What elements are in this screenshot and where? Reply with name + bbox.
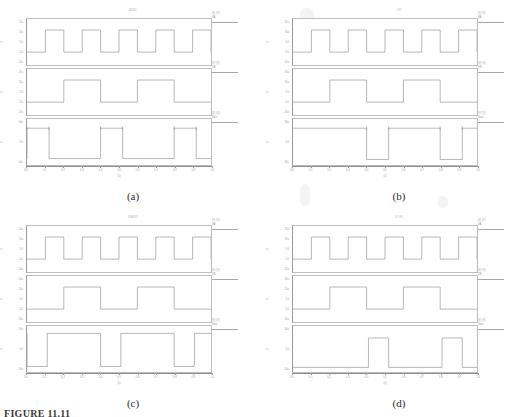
y-tick-label: -5.0 xyxy=(285,258,289,261)
x-tick-label: 0.1 xyxy=(43,169,47,172)
legend-signal: VB xyxy=(212,66,264,70)
x-tick-mark xyxy=(100,166,101,168)
legend-line-swatch xyxy=(212,72,238,73)
x-tick-label: 0.1 xyxy=(43,376,47,379)
x-tick-label: 0.3 xyxy=(80,376,84,379)
legend-signal: VA xyxy=(212,16,264,20)
x-axis-name: (s) xyxy=(117,382,120,385)
waveform-trace xyxy=(27,326,211,372)
panel-b-caption: (b) xyxy=(266,190,532,202)
legend: (V) (V) VA xyxy=(212,12,264,23)
legend-signal: VB xyxy=(478,273,530,277)
panel-a-caption: (a) xyxy=(0,190,266,202)
y-tick-labels: 25u15u5.0-5.0-15u xyxy=(270,18,290,66)
x-tick-label: 1.0 xyxy=(476,169,480,172)
x-tick-label: 0.4 xyxy=(99,376,103,379)
x-tick-label: 0.7 xyxy=(420,376,424,379)
panel-b: OR V 25u15u5.0-5.0-15u (V) (V) VA V 25u1… xyxy=(266,2,532,202)
x-tick-mark xyxy=(348,166,349,168)
legend: (V) (V) VA xyxy=(478,219,530,230)
x-tick-mark xyxy=(156,166,157,168)
panel-b-subplot-1: V 25u15u5.0-5.0-15u (V) (V) VA xyxy=(292,18,478,66)
waveform-trace xyxy=(27,19,211,65)
legend-line-swatch xyxy=(212,122,238,123)
x-tick-label: 0.6 xyxy=(402,169,406,172)
x-axis-name: (s) xyxy=(383,382,386,385)
y-tick-label: 5.0 xyxy=(19,248,23,251)
legend-signal: VA xyxy=(212,223,264,227)
x-tick-label: 1.0 xyxy=(476,376,480,379)
legend-line-swatch xyxy=(478,122,504,123)
panel-a-subplot-1: V 25u15u5.0-5.0-15u (V) (V) VA xyxy=(26,18,212,66)
waveform-trace xyxy=(27,226,211,272)
x-tick-mark xyxy=(45,373,46,375)
y-tick-labels: 25u15u5.0-5.0-15u xyxy=(4,225,24,273)
plot-area xyxy=(292,325,478,373)
y-tick-label: -5.0 xyxy=(285,51,289,54)
x-tick-mark xyxy=(175,166,176,168)
x-axis-name: (s) xyxy=(383,175,386,178)
x-tick-label: 0.7 xyxy=(154,376,158,379)
x-tick-label: 0.7 xyxy=(154,169,158,172)
legend: (V) (V) Vout xyxy=(478,319,530,330)
y-tick-label: 50u xyxy=(19,120,23,123)
x-tick-mark xyxy=(138,166,139,168)
x-tick-label: 0.0 xyxy=(290,169,294,172)
x-tick-mark xyxy=(459,166,460,168)
legend-signal: VB xyxy=(478,66,530,70)
x-tick-mark xyxy=(311,166,312,168)
y-tick-label: 15u xyxy=(19,287,23,290)
y-tick-labels: 25u15u5.0-5.0-15u xyxy=(4,18,24,66)
y-tick-label: 25u xyxy=(285,70,289,73)
y-tick-label: 5.0 xyxy=(19,91,23,94)
x-tick-mark xyxy=(404,373,405,375)
y-tick-label: -15u xyxy=(18,111,23,114)
x-tick-mark xyxy=(119,166,120,168)
x-tick-mark xyxy=(82,166,83,168)
x-tick-label: 0.8 xyxy=(439,169,443,172)
legend: (V) (V) VB xyxy=(478,62,530,73)
x-tick-label: 0.3 xyxy=(346,169,350,172)
panel-a-subplot-3: V 50u0.0-50u (V) (V) Vout xyxy=(26,118,212,166)
legend-signal: Vout xyxy=(478,116,530,120)
x-tick-label: 0.2 xyxy=(327,169,331,172)
x-tick-mark xyxy=(26,166,27,168)
panel-a-subplot-2: V 25u15u5.0-5.0-15u (V) (V) VB xyxy=(26,68,212,116)
y-tick-label: 0.0 xyxy=(285,141,289,144)
y-tick-labels: 50u0.0-50u xyxy=(4,325,24,373)
waveform-trace xyxy=(293,276,477,322)
plot-area xyxy=(26,225,212,273)
y-tick-label: 5.0 xyxy=(285,248,289,251)
legend: (V) (V) Vout xyxy=(212,112,264,123)
y-tick-label: 5.0 xyxy=(19,41,23,44)
panel-d-subplot-3: V 50u0.0-50u (V) (V) Vout xyxy=(292,325,478,373)
y-tick-label: 25u xyxy=(19,70,23,73)
plot-area xyxy=(292,118,478,166)
legend-signal: VA xyxy=(478,223,530,227)
waveform-trace xyxy=(293,119,477,165)
x-tick-mark xyxy=(459,373,460,375)
x-tick-mark xyxy=(385,166,386,168)
y-tick-label: 25u xyxy=(19,227,23,230)
panel-d-subplot-2: V 25u15u5.0-5.0-15u (V) (V) VB xyxy=(292,275,478,323)
y-tick-label: -5.0 xyxy=(19,51,23,54)
panel-a: AND V 25u15u5.0-5.0-15u (V) (V) VA V 25u… xyxy=(0,2,266,202)
x-tick-mark xyxy=(212,373,213,375)
legend: (V) (V) VB xyxy=(478,269,530,280)
panel-d-subplot-1: V 25u15u5.0-5.0-15u (V) (V) VA xyxy=(292,225,478,273)
y-tick-label: 25u xyxy=(19,20,23,23)
legend: (V) (V) Vout xyxy=(212,319,264,330)
y-tick-label: -15u xyxy=(284,111,289,114)
x-tick-mark xyxy=(292,166,293,168)
x-tick-label: 0.9 xyxy=(192,169,196,172)
y-tick-label: -50u xyxy=(18,161,23,164)
panel-c-subplot-3: V 50u0.0-50u (V) (V) Vout xyxy=(26,325,212,373)
x-tick-mark xyxy=(385,373,386,375)
x-tick-label: 0.0 xyxy=(24,169,28,172)
panel-c-x-axis: (s) 0.00.10.20.30.40.50.60.70.80.91.0 xyxy=(26,373,212,389)
y-tick-label: 15u xyxy=(285,287,289,290)
legend-line-swatch xyxy=(212,279,238,280)
plot-area xyxy=(26,68,212,116)
x-tick-mark xyxy=(404,166,405,168)
panel-grid: AND V 25u15u5.0-5.0-15u (V) (V) VA V 25u… xyxy=(0,0,532,400)
